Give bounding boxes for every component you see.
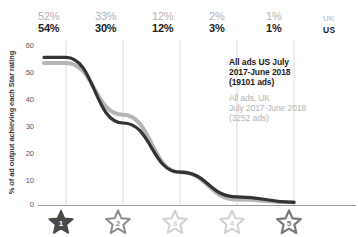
legend-uk-line-1: All ads, UK bbox=[229, 93, 349, 103]
x-axis-star-1: 1 bbox=[38, 207, 95, 235]
legend-us-line-1: All ads US July bbox=[229, 57, 349, 67]
star-5-number: 5 bbox=[287, 219, 292, 228]
star-3-icon: 3 bbox=[162, 209, 188, 235]
star-3-number: 3 bbox=[173, 219, 178, 228]
x-axis-star-4: 4 bbox=[209, 207, 266, 235]
legend-entry-uk: All ads, UK July 2017-June 2018 (3252 ad… bbox=[229, 93, 349, 123]
x-axis-star-3: 3 bbox=[152, 207, 209, 235]
legend-entry-us: All ads US July 2017-June 2018 (19101 ad… bbox=[229, 57, 349, 87]
star-4-icon: 4 bbox=[219, 209, 245, 235]
legend-us-line-3: (19101 ads) bbox=[229, 77, 349, 87]
star-1-number: 1 bbox=[59, 219, 64, 228]
x-axis-star-5: 5 bbox=[266, 207, 323, 235]
x-axis-star-labels: 1 2 3 4 5 bbox=[38, 207, 358, 235]
star-1-icon: 1 bbox=[48, 209, 74, 235]
star-2-icon: 2 bbox=[105, 209, 131, 235]
chart-container: 52% 33% 12% 2% 1% UK 54% 30% 12% 3% 1% U… bbox=[0, 0, 358, 237]
legend: All ads US July 2017-June 2018 (19101 ad… bbox=[229, 57, 349, 129]
legend-uk-line-3: (3252 ads) bbox=[229, 113, 349, 123]
legend-us-line-2: 2017-June 2018 bbox=[229, 67, 349, 77]
legend-uk-line-2: July 2017-June 2018 bbox=[229, 103, 349, 113]
star-5-icon: 5 bbox=[276, 209, 302, 235]
star-2-number: 2 bbox=[116, 219, 121, 228]
star-4-number: 4 bbox=[230, 219, 235, 228]
x-axis-star-2: 2 bbox=[95, 207, 152, 235]
